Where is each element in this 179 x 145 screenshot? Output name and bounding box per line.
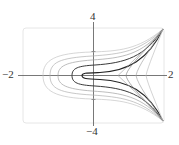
trajectory-curve — [58, 29, 163, 121]
x-axis-max-label: 2 — [168, 69, 174, 80]
x-axis-min-label: −2 — [2, 69, 14, 80]
y-axis-max-label: 4 — [90, 11, 96, 22]
y-axis-min-label: −4 — [86, 126, 98, 137]
